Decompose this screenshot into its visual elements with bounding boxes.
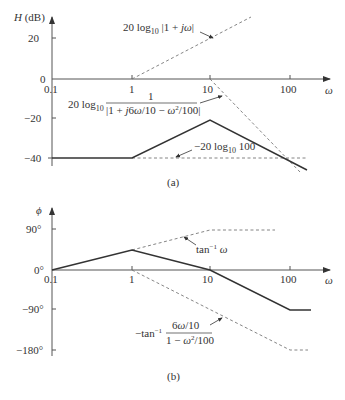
phase-xtick: 100: [280, 273, 297, 285]
magnitude-plot: H (dB) 20 0 −20 −40 0.1 1 10 100 ω 20 lo…: [13, 11, 333, 189]
phase-xtick: 1: [129, 273, 135, 285]
magnitude-xtick: 100: [280, 83, 297, 95]
annotation-arctan-term: tan−1 ω: [196, 243, 228, 255]
annotation-zero-term: 20 log10 |1 + jω|: [123, 21, 194, 36]
phase-xtick: 0.1: [44, 273, 58, 285]
magnitude-x-label: ω: [325, 84, 333, 96]
magnitude-xtick: 0.1: [44, 83, 58, 95]
magnitude-ytick: −40: [24, 152, 42, 164]
phase-ytick: 90°: [26, 223, 41, 235]
phase-ytick: −90°: [22, 303, 44, 315]
annotation-pole-numerator: 1: [148, 90, 154, 102]
magnitude-xtick: 10: [202, 83, 214, 95]
annotation-constant-term: −20 log10 100: [194, 140, 256, 155]
phase-xtick: 10: [202, 273, 214, 285]
panel-b-caption: (b): [167, 370, 180, 383]
magnitude-composite-line: [52, 120, 307, 170]
phase-ytick: −180°: [16, 344, 43, 356]
panel-a-caption: (a): [167, 176, 180, 189]
bode-diagram: H (dB) 20 0 −20 −40 0.1 1 10 100 ω 20 lo…: [0, 0, 345, 400]
phase-y-label: ϕ: [36, 204, 42, 216]
phase-plot: ϕ 90° 0° −90° −180° 0.1 1 10 100 ω tan−1…: [16, 204, 333, 383]
magnitude-ytick: 20: [28, 32, 40, 44]
phase-composite-line: [52, 250, 311, 310]
magnitude-xtick: 1: [129, 83, 135, 95]
phase-ytick: 0°: [34, 264, 44, 276]
annotation-pole-prefix: 20 log10: [68, 98, 104, 113]
annotation-pole-phase-numerator: 6ω/10: [172, 319, 200, 331]
phase-x-label: ω: [325, 274, 333, 286]
magnitude-y-label: H (dB): [13, 11, 45, 24]
annotation-pole-phase-denominator: 1 − ω2/100: [166, 334, 215, 346]
magnitude-ytick: −20: [24, 112, 42, 124]
annotation-pole-phase-prefix: −tan−1: [135, 327, 163, 339]
annotation-pole-denominator: |1 + j6ω/10 − ω2/100|: [106, 104, 201, 116]
